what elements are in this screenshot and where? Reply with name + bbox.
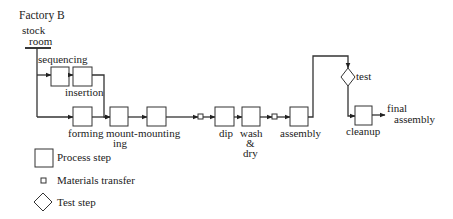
diagram-title: Factory B (19, 9, 65, 22)
label-wash-line3: dry (243, 147, 258, 159)
process-box-cleanup (355, 106, 372, 125)
label-mount-ing-line2: ing (113, 137, 128, 149)
process-box-wash-dry (242, 107, 260, 126)
process-box-sequencing (51, 67, 69, 86)
process-box-dip (215, 107, 234, 126)
stock-room-label-line2: room (29, 35, 53, 47)
process-box-forming (73, 107, 92, 126)
test-step-diamond (341, 68, 355, 86)
label-dip: dip (219, 127, 234, 139)
legend-test-step-icon (34, 193, 52, 211)
label-mounting: mounting (138, 127, 181, 139)
legend-process-step-icon (35, 149, 53, 167)
label-assembly: assembly (280, 127, 321, 139)
legend-materials-transfer-icon (41, 178, 46, 183)
label-cleanup: cleanup (346, 125, 381, 137)
materials-transfer-1 (198, 114, 203, 119)
process-box-insertion (73, 67, 92, 86)
process-box-assembly (290, 107, 308, 126)
legend-test-step-label: Test step (57, 196, 96, 208)
flow-test-to-cleanup (348, 86, 355, 116)
legend: Process step Materials transfer Test ste… (34, 149, 135, 211)
label-insertion: insertion (65, 86, 104, 98)
legend-materials-transfer-label: Materials transfer (57, 174, 135, 186)
process-box-mounting (147, 107, 166, 126)
label-final-line2: assembly (394, 113, 435, 125)
legend-process-step-label: Process step (57, 151, 112, 163)
label-forming: forming (68, 127, 104, 139)
process-box-mount-ing (110, 107, 128, 126)
factory-b-flow-diagram: Factory B stock room sequencing insertio… (0, 0, 453, 219)
label-sequencing: sequencing (38, 53, 88, 65)
flow-assembly-to-test (308, 56, 348, 117)
materials-transfer-2 (272, 114, 277, 119)
label-test: test (356, 70, 371, 82)
